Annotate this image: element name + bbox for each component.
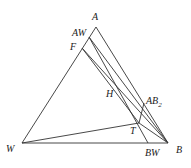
label-w: W [6,143,16,154]
label-ab2: AB2 [145,95,162,109]
line-aw-bw [89,37,148,143]
line-f-t [82,48,139,123]
label-aw: AW [71,27,88,38]
line-t-b [139,123,168,143]
label-bw: BW [145,147,161,158]
label-t: T [130,125,137,136]
label-f: F [69,41,77,52]
line-w-t [22,123,139,143]
label-h: H [105,88,114,99]
label-b: B [176,144,182,155]
label-a: A [91,11,99,22]
line-aw-b [89,37,168,143]
line-t-ab2 [139,103,144,123]
ternary-diagram: A AW F H AB2 T W BW B [0,0,191,168]
